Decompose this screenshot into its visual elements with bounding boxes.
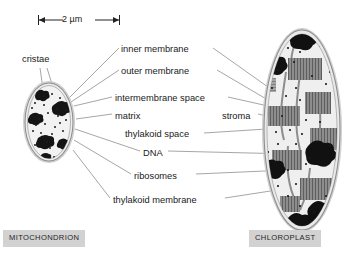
label-dna: DNA — [143, 149, 163, 158]
label-stroma: stroma — [222, 112, 250, 121]
chloroplast-organelle — [262, 27, 342, 236]
mitochondrion-organelle — [23, 81, 75, 163]
label-thylakoid-space: thylakoid space — [125, 130, 189, 139]
label-ribosomes: ribosomes — [134, 172, 177, 181]
label-cristae: cristae — [22, 55, 49, 64]
caption-chloroplast: CHLOROPLAST — [249, 230, 321, 247]
label-outer-membrane: outer membrane — [121, 67, 189, 76]
label-inner-membrane: inner membrane — [121, 45, 189, 54]
caption-mitochondrion: MITOCHONDRION — [3, 230, 85, 247]
figure-canvas: 2 µm cristae inner membrane outer membra… — [0, 0, 349, 258]
label-intermembrane-space: intermembrane space — [115, 94, 205, 103]
label-thylakoid-membrane: thylakoid membrane — [113, 196, 197, 205]
label-matrix: matrix — [115, 112, 140, 121]
scale-bar-label: 2 µm — [62, 14, 82, 24]
